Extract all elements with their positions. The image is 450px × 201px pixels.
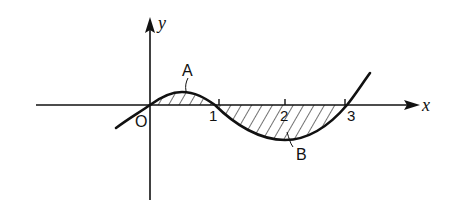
region-b-label: B: [296, 147, 307, 163]
x-axis-label: x: [422, 96, 430, 114]
leader-a: [186, 78, 188, 91]
graph-svg: [0, 0, 450, 201]
tick-label-1: 1: [209, 108, 217, 123]
tick-label-2: 2: [280, 108, 288, 123]
y-axis-label: y: [158, 14, 166, 32]
tick-label-3: 3: [347, 108, 355, 123]
diagram-canvas: y x O 1 2 3 A B: [0, 0, 450, 201]
region-a-label: A: [182, 63, 193, 79]
origin-label: O: [135, 114, 147, 130]
